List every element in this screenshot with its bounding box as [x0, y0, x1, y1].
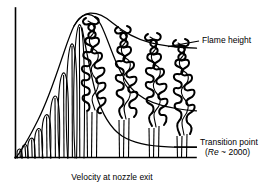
turbulent-flame-stem	[187, 134, 188, 158]
reynolds-number-label: (Re ~ 2000)	[205, 147, 250, 157]
transition-point-label: Transition point	[200, 137, 258, 147]
annotation-flame-height: Flame height	[168, 35, 252, 47]
flame-height-figure: Flame height Transition point (Re ~ 2000…	[0, 0, 277, 190]
turbulent-flame-stem	[87, 112, 88, 158]
turbulent-flame-stem	[149, 128, 150, 158]
reynolds-value: ~ 2000)	[219, 147, 251, 157]
turbulent-flame-stem	[154, 128, 155, 158]
turbulent-flame-stem	[129, 118, 130, 158]
turbulent-flame-stem	[159, 126, 160, 158]
flame-height-label: Flame height	[202, 35, 252, 45]
turbulent-flame-stem	[124, 120, 125, 158]
flame-stem	[25, 146, 26, 158]
turbulent-flame-stem	[97, 110, 98, 158]
reynolds-symbol: Re	[208, 147, 219, 157]
flame-stem	[32, 140, 33, 159]
turbulent-flame	[173, 39, 195, 158]
x-axis-caption: Velocity at nozzle exit	[71, 172, 153, 182]
flame-height-diagram: Flame height Transition point (Re ~ 2000…	[0, 0, 277, 190]
turbulent-flame-stem	[92, 112, 93, 158]
turbulent-flame-stem	[119, 120, 120, 158]
turbulent-flame	[145, 33, 168, 158]
